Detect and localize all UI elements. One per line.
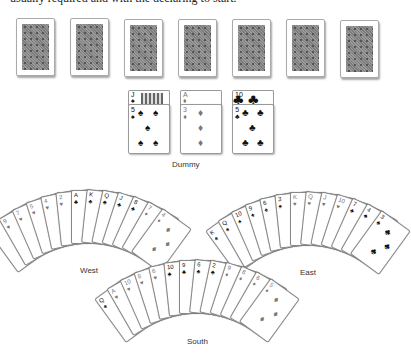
card-rank: 10	[123, 278, 132, 286]
pip: ♦	[164, 224, 174, 235]
pip: ♦	[257, 314, 267, 325]
pip: ♣	[257, 138, 264, 148]
card-back-pattern	[346, 26, 373, 72]
card-rank: 2	[212, 262, 217, 269]
pip: ♦	[198, 108, 203, 118]
card-suit: ♥	[45, 204, 50, 211]
pip: ♠	[138, 138, 143, 148]
pip: ♦	[272, 294, 282, 305]
card-suit: ♣	[363, 212, 369, 219]
card-suit: ♣	[182, 269, 186, 275]
card-suit: ♥	[59, 201, 63, 207]
card-suit: ♣	[167, 271, 172, 277]
pip: ♣	[249, 123, 256, 133]
pip: ♠	[145, 123, 150, 133]
card-rank: Q	[308, 193, 313, 199]
card-suit: ♥	[335, 203, 340, 210]
face-down-card[interactable]	[70, 18, 109, 76]
card-suit: ♠	[278, 203, 282, 209]
card-suit: ♥	[18, 216, 24, 223]
east-label: East	[300, 268, 316, 277]
card-back-pattern	[22, 24, 49, 70]
card-suit: ♠	[264, 207, 268, 214]
card-rank: 6	[152, 268, 157, 275]
pip: ♦	[163, 239, 173, 250]
card-rank: 4	[366, 206, 372, 213]
pip: ♠	[138, 108, 143, 118]
card-suit: ♦	[238, 275, 243, 282]
pip: ♣	[242, 108, 249, 118]
face-down-card[interactable]	[232, 19, 271, 77]
pip: ♣	[257, 108, 264, 118]
card-rank: 2	[59, 194, 63, 200]
face-down-card[interactable]	[124, 19, 163, 77]
card-rank: 3	[278, 196, 282, 202]
card-suit: ♠	[102, 303, 108, 310]
card-rank: 9	[227, 265, 232, 272]
card-suit: ♣	[88, 198, 93, 204]
card-suit: ♥	[114, 294, 120, 301]
pip: ♦	[149, 244, 159, 255]
card-suit: ♥	[307, 200, 311, 206]
card-suit: ♥	[153, 274, 158, 281]
south-label: South	[187, 337, 208, 346]
card-rank: 5♣	[235, 106, 240, 120]
card-suit: ♣	[130, 205, 136, 212]
card-suit: ♦	[144, 210, 150, 217]
card-rank: 8	[241, 269, 246, 276]
card-rank: J♠	[131, 92, 135, 104]
pip: ♣	[368, 246, 379, 258]
pip: ♦	[198, 138, 203, 148]
card-rank: K	[89, 191, 94, 197]
face-down-card[interactable]	[286, 19, 325, 77]
card-suit: ♥	[126, 286, 132, 293]
card-rank: 10♣	[235, 92, 243, 104]
card-rank: 9	[182, 262, 185, 268]
card-rank: J	[323, 194, 327, 200]
card-rank: 6	[197, 261, 201, 267]
card-back-pattern	[292, 25, 319, 71]
card-suit: ♣	[349, 207, 355, 214]
pip: ♠	[153, 108, 158, 118]
card-rank: 7	[147, 204, 153, 211]
card-rank: 10	[167, 264, 174, 271]
card-rank: A	[74, 192, 78, 198]
dummy-card-bottom-0[interactable]: 5♠ ♠ ♠ ♠ ♠ ♠	[128, 104, 170, 154]
card-rank: 7	[352, 201, 357, 208]
card-rank: 8	[133, 199, 138, 206]
card-rank: J	[119, 195, 124, 202]
face-down-card[interactable]	[16, 18, 55, 76]
card-suit: ♦	[224, 271, 229, 278]
caption-text: usually required and with the declaring …	[10, 0, 237, 6]
card-suit: ♦	[156, 217, 162, 224]
card-suit: ♥	[6, 224, 12, 231]
card-rank: A♦	[183, 92, 188, 104]
pip: ♣	[382, 241, 393, 253]
face-down-card[interactable]	[340, 20, 379, 78]
card-rank: 3♦	[183, 106, 187, 120]
card-rank: 6	[255, 274, 261, 281]
pip: ♠	[153, 138, 158, 148]
card-suit: ♣	[116, 201, 122, 208]
card-suit: ♣	[102, 199, 107, 206]
dummy-card-bottom-2[interactable]: 5♣ ♣ ♣ ♣ ♣ ♣	[232, 104, 274, 154]
card-rank: 5♠	[131, 106, 135, 120]
card-suit: ♠	[237, 218, 242, 225]
card-suit: ♣	[74, 199, 78, 205]
card-suit: ♥	[31, 209, 36, 216]
card-suit: ♥	[321, 201, 326, 208]
face-down-card[interactable]	[178, 19, 217, 77]
pip: ♦	[271, 309, 281, 320]
face-card-art	[141, 93, 163, 104]
card-rank: 4	[44, 198, 49, 205]
card-rank: 10	[234, 210, 243, 218]
card-suit: ♦	[252, 280, 258, 287]
card-back-pattern	[76, 24, 103, 70]
card-back-pattern	[130, 25, 157, 71]
card-suit: ♠	[225, 226, 231, 233]
pip: ♣	[383, 226, 394, 238]
west-label: West	[80, 266, 98, 275]
card-suit: ♣	[375, 219, 382, 226]
dummy-card-bottom-1[interactable]: 3♦ ♦ ♦ ♦	[180, 104, 222, 154]
pip: ♦	[198, 123, 203, 133]
